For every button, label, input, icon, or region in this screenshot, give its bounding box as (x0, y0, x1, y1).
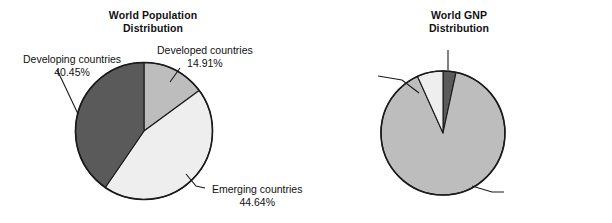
pie-chart-world-gnp (306, 0, 612, 223)
callout-value: 14.91% (157, 57, 253, 70)
callout-value: 44.64% (212, 196, 302, 209)
callout-label: Developing countries (23, 53, 121, 65)
callout-population-emerging: Emerging countries 44.64% (212, 183, 302, 209)
callout-population-developing: Developing countries 40.45% (23, 53, 121, 79)
callout-label: Developed countries (157, 44, 253, 56)
callout-value: 40.45% (23, 66, 121, 79)
chart-panel-world-gnp: World GNP Distribution Developing countr… (306, 0, 612, 223)
chart-panel-world-population: World Population Distribution Developing… (0, 0, 306, 223)
callout-label: Emerging countries (212, 183, 302, 195)
pie-chart-figure: World Population Distribution Developing… (0, 0, 612, 223)
leader-line-gnp-developed (472, 186, 504, 192)
callout-population-developed: Developed countries 14.91% (157, 44, 253, 70)
